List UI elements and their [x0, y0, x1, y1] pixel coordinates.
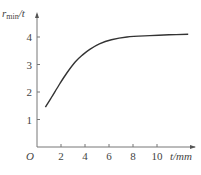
data-curve	[45, 34, 188, 107]
x-tick-label: 6	[106, 150, 112, 162]
y-tick-label: 2	[27, 86, 33, 98]
y-tick-label: 1	[27, 114, 33, 126]
y-axis-arrow-icon	[35, 12, 39, 18]
x-tick-label: 8	[130, 150, 136, 162]
x-tick-label: 4	[82, 150, 88, 162]
origin-label: O	[26, 150, 34, 162]
y-tick-label: 3	[27, 59, 33, 71]
chart: 2468101234 rmin/t t/mm O	[0, 0, 201, 175]
y-axis-label: rmin/t	[2, 7, 26, 21]
x-tick-label: 2	[58, 150, 64, 162]
x-tick-label: 10	[152, 150, 164, 162]
x-axis-label: t/mm	[170, 150, 192, 162]
x-axis-arrow-icon	[190, 145, 196, 149]
y-tick-label: 4	[27, 31, 33, 43]
